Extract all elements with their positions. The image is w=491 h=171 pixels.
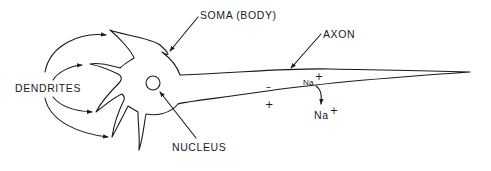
- soma-pointer: [170, 17, 198, 51]
- inside-sodium-charge: +: [315, 71, 323, 82]
- ion-flow-arrow: [316, 86, 321, 104]
- outside-sodium-symbol: Na: [314, 109, 329, 121]
- outside-sodium-ion: Na+: [314, 110, 338, 121]
- nucleus-pointer: [160, 92, 196, 138]
- dendrite-arrow-3: [53, 97, 92, 112]
- axon-pointer: [291, 34, 321, 68]
- dendrite-arrow-4: [45, 98, 108, 137]
- inside-negative-charge: –: [266, 82, 271, 92]
- outside-sodium-charge: +: [330, 105, 338, 116]
- outside-positive-charge: +: [265, 100, 273, 110]
- dendrites-label: DENDRITES: [15, 83, 81, 94]
- soma-label: SOMA (BODY): [200, 10, 277, 21]
- soma-outline: [90, 30, 470, 150]
- nucleus-circle: [146, 76, 160, 90]
- inside-sodium-symbol: Na: [303, 78, 314, 87]
- nucleus-label: NUCLEUS: [172, 142, 226, 153]
- axon-label: AXON: [323, 29, 355, 40]
- dendrite-arrow-2: [53, 65, 82, 80]
- inside-sodium-ion: Na+: [303, 77, 323, 87]
